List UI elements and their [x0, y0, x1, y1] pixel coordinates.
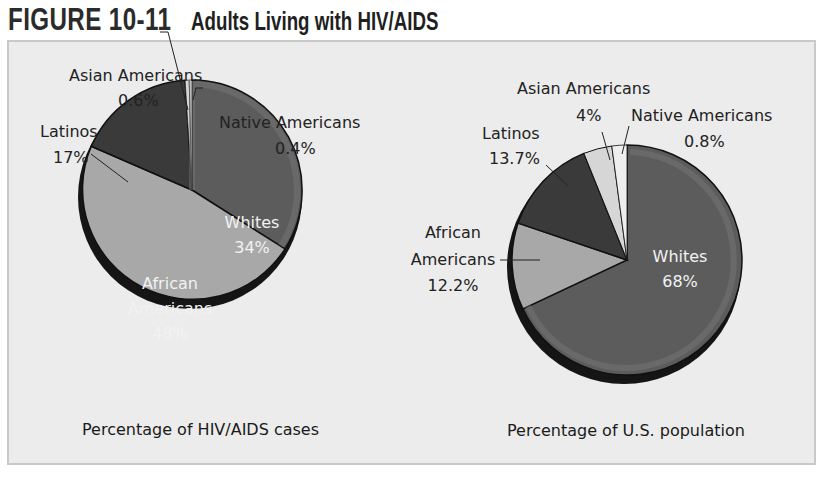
label-african-americans-line2: Americans [128, 299, 212, 318]
label-latinos-name: Latinos [40, 122, 98, 141]
pie-chart-hiv-cases: Asian Americans 0.6% Native Americans 0.… [40, 32, 360, 343]
charts-canvas: Asian Americans 0.6% Native Americans 0.… [0, 0, 821, 482]
label-african-americans-line2: Americans [411, 250, 495, 269]
label-asian-americans-value: 0.6% [118, 91, 159, 110]
pie-chart-us-population: Asian Americans 4% Native Americans 0.8%… [411, 79, 773, 384]
caption-hiv-cases: Percentage of HIV/AIDS cases [82, 420, 319, 439]
label-african-americans-line1: African [142, 274, 198, 293]
label-asian-americans-name: Asian Americans [517, 79, 650, 98]
label-african-americans-line1: African [425, 223, 481, 242]
label-native-americans-name: Native Americans [631, 106, 772, 125]
label-whites-value: 34% [234, 238, 270, 257]
label-african-americans-value: 12.2% [428, 276, 479, 295]
label-native-americans-value: 0.8% [684, 132, 725, 151]
label-african-americans-value: 48% [152, 324, 188, 343]
label-whites-name: Whites [653, 247, 708, 266]
caption-us-population: Percentage of U.S. population [507, 421, 745, 440]
label-native-americans-value: 0.4% [275, 139, 316, 158]
label-latinos-name: Latinos [482, 124, 540, 143]
label-whites-name: Whites [225, 213, 280, 232]
label-native-americans-name: Native Americans [219, 113, 360, 132]
label-latinos-value: 13.7% [489, 149, 540, 168]
label-asian-americans-name: Asian Americans [69, 66, 202, 85]
label-whites-value: 68% [662, 272, 698, 291]
label-asian-americans-value: 4% [576, 106, 601, 125]
label-latinos-value: 17% [53, 148, 89, 167]
